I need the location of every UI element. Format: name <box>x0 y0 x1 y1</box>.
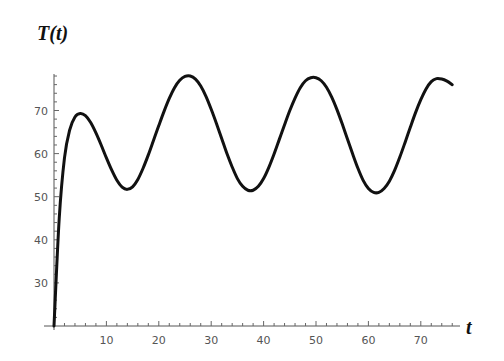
y-tick-label: 50 <box>34 191 48 204</box>
line-chart: T(t) 3040506070 10203040506070 t <box>0 0 504 361</box>
y-tick-label: 30 <box>34 277 48 290</box>
x-tick-label: 60 <box>361 334 375 347</box>
y-tick-label: 40 <box>34 234 48 247</box>
x-tick-label: 50 <box>309 334 323 347</box>
x-tick-label: 30 <box>204 334 218 347</box>
x-axis-title: t <box>466 316 473 338</box>
y-tick-label: 70 <box>34 105 48 118</box>
axes <box>44 74 460 330</box>
x-tick-label: 40 <box>257 334 271 347</box>
y-tick-label: 60 <box>34 148 48 161</box>
series-line-T <box>54 76 452 326</box>
y-axis-title: T(t) <box>37 22 68 45</box>
x-axis-ticks: 10203040506070 <box>64 321 452 347</box>
x-tick-label: 70 <box>414 334 428 347</box>
x-tick-label: 10 <box>99 334 113 347</box>
x-tick-label: 20 <box>152 334 166 347</box>
